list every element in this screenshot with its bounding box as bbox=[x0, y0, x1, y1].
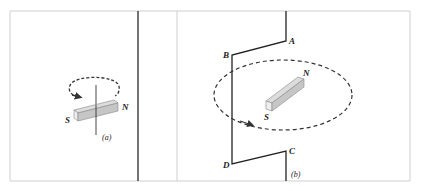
panel-b: A B C D N S (b) bbox=[214, 11, 352, 181]
point-c-label: C bbox=[289, 146, 296, 156]
north-pole-label-b: N bbox=[302, 68, 310, 78]
south-pole-label-a: S bbox=[65, 115, 70, 125]
south-pole-label-b: S bbox=[264, 112, 269, 122]
bar-magnet-b bbox=[266, 77, 304, 111]
panel-a: S N (a) bbox=[65, 77, 129, 142]
diagram-svg: S N (a) A B C D N S (b) bbox=[0, 0, 421, 191]
point-b-label: B bbox=[222, 50, 229, 60]
figure-container: S N (a) A B C D N S (b) bbox=[0, 0, 421, 191]
point-a-label: A bbox=[288, 36, 295, 46]
caption-b: (b) bbox=[291, 170, 301, 179]
north-pole-label-a: N bbox=[121, 102, 129, 112]
frame bbox=[10, 11, 410, 181]
caption-a: (a) bbox=[102, 133, 112, 142]
point-d-label: D bbox=[222, 160, 230, 170]
rotation-arrow-icon bbox=[69, 77, 119, 97]
